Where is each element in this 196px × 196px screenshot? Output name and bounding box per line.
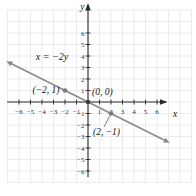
y-tick-label: 3 [81, 64, 85, 72]
y-tick-label: −5 [77, 156, 85, 164]
y-tick-label: −1 [77, 110, 85, 118]
data-point [86, 100, 91, 105]
y-tick-label: 5 [81, 41, 85, 49]
x-tick-label: 6 [155, 108, 159, 116]
point-label-neg2-1: (−2, 1) [33, 85, 60, 96]
y-tick-label: −3 [77, 133, 85, 141]
x-tick-label: 5 [144, 108, 148, 116]
x-tick-label: −3 [50, 108, 58, 116]
y-tick-label: 2 [81, 76, 85, 84]
coordinate-plane-chart: −6−5−4−3−2−1123456−6−5−4−3−2−1123456 x y… [0, 0, 196, 196]
y-tick-label: 4 [81, 53, 85, 61]
y-tick-label: −4 [77, 145, 85, 153]
data-point [109, 111, 114, 116]
y-tick-label: 1 [81, 87, 85, 95]
point-label-0-0: (0, 0) [92, 87, 113, 98]
x-tick-label: −4 [38, 108, 46, 116]
x-tick-label: 3 [121, 108, 125, 116]
equation-label: x = −2y [35, 51, 69, 62]
y-tick-label: −6 [77, 168, 85, 176]
x-axis-arrow-icon [160, 99, 168, 105]
axes [7, 3, 168, 177]
x-tick-label: −2 [61, 108, 69, 116]
x-tick-label: −6 [15, 108, 23, 116]
point-label-2-neg1: (2, −1) [93, 127, 120, 138]
data-point [63, 88, 68, 93]
y-tick-label: −2 [77, 122, 85, 130]
y-axis-label: y [79, 2, 85, 12]
x-tick-label: 4 [132, 108, 136, 116]
x-axis-label: x [172, 109, 178, 119]
x-tick-label: −5 [27, 108, 35, 116]
y-axis-arrow-icon [85, 3, 91, 11]
y-tick-label: 6 [81, 30, 85, 38]
graph-figure: −6−5−4−3−2−1123456−6−5−4−3−2−1123456 x y… [0, 0, 196, 196]
